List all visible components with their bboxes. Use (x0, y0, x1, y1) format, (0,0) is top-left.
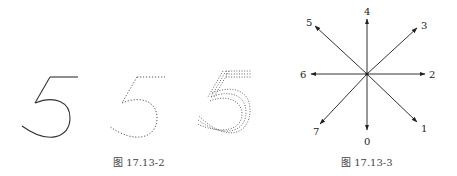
multi-dotted-five-glyph (197, 71, 252, 133)
direction-label-2: 2 (429, 69, 435, 80)
figure-canvas: 4 0 6 2 5 3 7 1 (0, 0, 457, 176)
figure-caption-17-13-2: 图 17.13-2 (113, 154, 165, 169)
figure-caption-17-13-3: 图 17.13-3 (341, 154, 393, 169)
direction-label-6: 6 (300, 69, 306, 80)
direction-label-1: 1 (421, 123, 427, 134)
direction-label-3: 3 (421, 20, 427, 31)
arrow-5 (315, 26, 367, 74)
dotted-five-glyph (109, 77, 165, 137)
direction-label-5: 5 (306, 17, 312, 28)
direction-label-7: 7 (313, 126, 319, 137)
arrow-3 (367, 28, 417, 74)
direction-star (311, 19, 425, 130)
center-dot (365, 72, 368, 75)
direction-label-0: 0 (364, 136, 370, 147)
arrow-1 (367, 74, 417, 122)
direction-label-4: 4 (364, 6, 370, 17)
solid-five-glyph (22, 77, 78, 137)
arrow-7 (320, 74, 367, 124)
